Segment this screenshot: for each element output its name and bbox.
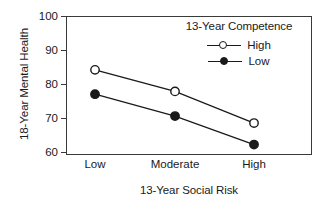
y-tick-label-70: 70: [24, 113, 58, 125]
legend-item-high: High: [172, 37, 306, 53]
x-tick-label-moderate: Moderate: [135, 159, 215, 171]
legend: 13-Year Competence High Low: [172, 20, 306, 69]
y-tick-label-80: 80: [24, 79, 58, 91]
filled-circle-icon: [208, 55, 242, 67]
x-tick-label-high: High: [214, 159, 294, 171]
legend-item-low: Low: [172, 53, 306, 69]
y-tick-label-60: 60: [24, 147, 58, 159]
x-axis-title: 13-Year Social Risk: [66, 184, 312, 196]
x-tick-label-low: Low: [55, 159, 135, 171]
legend-label-high: High: [247, 39, 271, 51]
legend-label-low: Low: [248, 55, 269, 67]
y-tick-label-90: 90: [24, 45, 58, 57]
legend-title: 13-Year Competence: [172, 20, 306, 32]
open-circle-icon: [207, 39, 241, 51]
y-tick-label-100: 100: [24, 11, 58, 23]
line-chart: 18-Year Mental Health 100 90 80 70 60 13…: [0, 0, 330, 207]
